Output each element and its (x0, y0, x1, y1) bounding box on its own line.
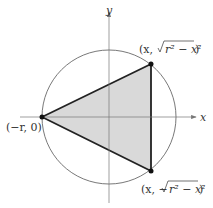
point-left (40, 115, 45, 120)
lower-prefix: (x, − (141, 183, 168, 196)
x-axis-label: x (200, 111, 207, 124)
y-axis-label: y (105, 4, 113, 17)
point-left-label: (−r, 0) (6, 121, 42, 134)
point-lower (149, 169, 154, 174)
upper-prefix: (x, (139, 43, 153, 56)
point-lower-label: (x, − r² − x² ) (141, 181, 206, 196)
shaded-triangle (42, 64, 151, 171)
upper-suffix: ) (195, 43, 199, 56)
diagram-canvas: x y (−r, 0) (x, r² − x² ) (x, − r² − x² … (0, 0, 213, 208)
point-upper (149, 62, 154, 67)
lower-suffix: ) (199, 183, 203, 196)
point-upper-label: (x, r² − x² ) (139, 41, 202, 56)
